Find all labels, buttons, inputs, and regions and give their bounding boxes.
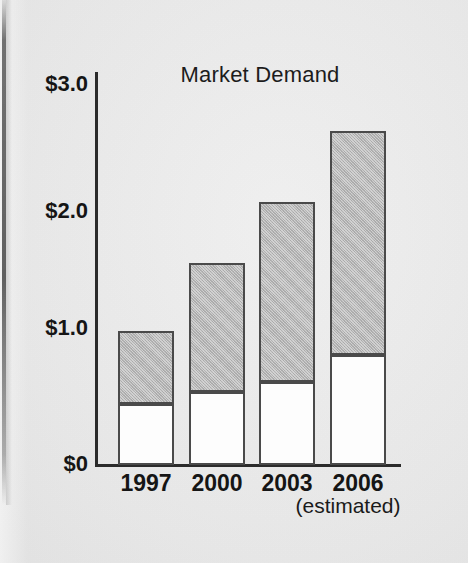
bar-2000-lower-segment: [189, 392, 245, 465]
x-tick-label-2006: 2006: [332, 470, 383, 497]
bar-1997-upper-segment: [118, 331, 174, 404]
y-tick-label-2: $2.0: [16, 198, 88, 224]
bar-1997[interactable]: [118, 331, 174, 465]
bar-2006[interactable]: [330, 131, 386, 465]
x-tick-label-1997: 1997: [120, 470, 171, 497]
bar-2003-lower-segment: [259, 382, 315, 465]
bar-2000[interactable]: [189, 263, 245, 465]
bar-2003[interactable]: [259, 202, 315, 465]
chart-page: Market Demand $3.0 $2.0 $1.0 $0: [0, 0, 468, 563]
bar-2003-upper-segment: [259, 202, 315, 382]
y-tick-label-3: $3.0: [16, 71, 88, 97]
x-tick-label-2000: 2000: [191, 470, 242, 497]
bar-2006-lower-segment: [330, 355, 386, 465]
estimated-note: (estimated): [295, 494, 400, 518]
chart-title: Market Demand: [150, 62, 370, 88]
y-axis-tick-labels: $3.0 $2.0 $1.0 $0: [12, 0, 88, 563]
bar-1997-lower-segment: [118, 404, 174, 465]
y-tick-label-0: $0: [16, 451, 88, 477]
bar-2006-upper-segment: [330, 131, 386, 355]
x-tick-label-2003: 2003: [261, 470, 312, 497]
y-axis-line: [95, 72, 98, 467]
y-tick-label-1: $1.0: [16, 315, 88, 341]
stacked-bar-chart: Market Demand $3.0 $2.0 $1.0 $0: [0, 0, 468, 563]
bar-2000-upper-segment: [189, 263, 245, 392]
